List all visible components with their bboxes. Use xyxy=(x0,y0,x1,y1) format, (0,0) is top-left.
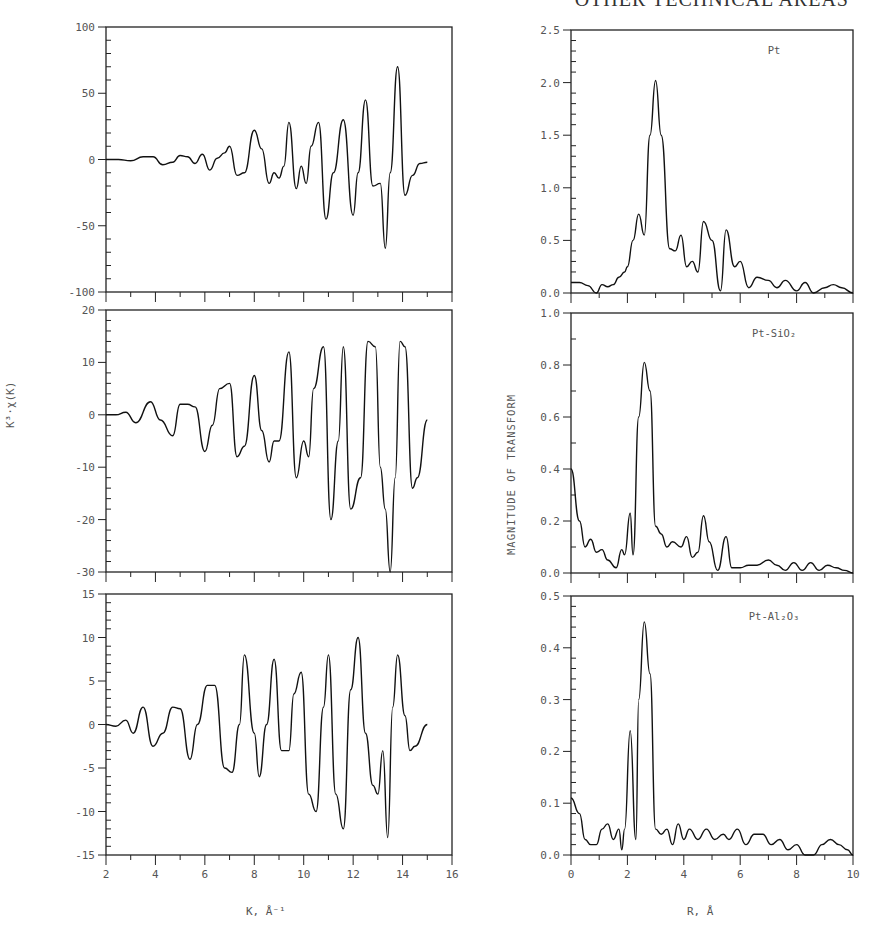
panel-title: Pt-SiO₂ xyxy=(752,327,796,339)
x-tick-label: 4 xyxy=(152,868,159,881)
y-tick-label: 1.5 xyxy=(540,129,560,142)
y-tick-label: 0.8 xyxy=(540,359,560,372)
y-tick-label: 15 xyxy=(82,588,95,601)
x-tick-label: 2 xyxy=(103,868,110,881)
x-tick-label: 14 xyxy=(396,868,410,881)
x-tick-label: 6 xyxy=(737,868,744,881)
y-tick-label: 0.0 xyxy=(540,849,560,862)
y-tick-label: 0.4 xyxy=(540,463,560,476)
left-x-axis-label: K, Å⁻¹ xyxy=(246,905,286,918)
x-tick-label: 8 xyxy=(251,868,258,881)
x-tick-label: 12 xyxy=(347,868,360,881)
y-tick-label: -10 xyxy=(75,806,95,819)
chart-chi-pt-al2o3: 151050-5-10-15246810121416 xyxy=(75,588,459,881)
plot-frame xyxy=(571,596,853,855)
y-tick-label: -50 xyxy=(75,220,95,233)
chart-ft-pt: 2.52.01.51.00.50.0Pt xyxy=(540,24,853,303)
y-tick-label: 0.0 xyxy=(540,567,560,580)
y-tick-label: 5 xyxy=(88,675,95,688)
y-tick-label: 0 xyxy=(88,154,95,167)
right-y-axis-label: MAGNITUDE OF TRANSFORM xyxy=(505,394,517,555)
y-tick-label: 0.5 xyxy=(540,234,560,247)
chart-chi-pt: 100500-50-100 xyxy=(69,21,453,302)
y-tick-label: 0.4 xyxy=(540,642,560,655)
y-tick-label: 1.0 xyxy=(540,307,560,320)
y-tick-label: 2.5 xyxy=(540,24,560,37)
y-tick-label: 0.1 xyxy=(540,797,560,810)
left-y-axis-label: K³·χ(K) xyxy=(4,382,17,428)
data-curve xyxy=(571,81,853,294)
y-tick-label: 2.0 xyxy=(540,77,560,90)
y-tick-label: -5 xyxy=(82,762,95,775)
y-tick-label: 0.3 xyxy=(540,694,560,707)
y-tick-label: 0 xyxy=(88,719,95,732)
y-tick-label: 20 xyxy=(82,304,95,317)
y-tick-label: 10 xyxy=(82,356,95,369)
chart-ft-pt-al2o3: 0.50.40.30.20.10.00246810Pt-Al₂O₃ xyxy=(540,590,860,881)
chart-chi-pt-sio2: 20100-10-20-30 xyxy=(75,304,452,582)
data-curve xyxy=(571,622,853,855)
plot-frame xyxy=(571,313,853,573)
chart-ft-pt-sio2: 1.00.80.60.40.20.0Pt-SiO₂ xyxy=(540,307,853,583)
plot-frame xyxy=(571,30,853,293)
y-tick-label: -10 xyxy=(75,461,95,474)
plot-frame xyxy=(106,27,452,292)
y-tick-label: -20 xyxy=(75,514,95,527)
x-tick-label: 10 xyxy=(846,868,859,881)
y-tick-label: -100 xyxy=(69,286,96,299)
x-tick-label: 6 xyxy=(202,868,209,881)
y-tick-label: 10 xyxy=(82,632,95,645)
panel-title: Pt-Al₂O₃ xyxy=(749,610,800,622)
x-tick-label: 0 xyxy=(568,868,575,881)
right-x-axis-label: R, Å xyxy=(687,905,714,918)
y-tick-label: 1.0 xyxy=(540,182,560,195)
data-curve xyxy=(106,341,427,572)
data-curve xyxy=(106,638,427,838)
y-tick-label: 50 xyxy=(82,87,95,100)
y-tick-label: -15 xyxy=(75,849,95,862)
y-tick-label: 0.2 xyxy=(540,515,560,528)
y-tick-label: 0.5 xyxy=(540,590,560,603)
x-tick-label: 8 xyxy=(793,868,800,881)
data-curve xyxy=(571,362,853,573)
y-tick-label: 100 xyxy=(75,21,95,34)
y-tick-label: -30 xyxy=(75,566,95,579)
y-tick-label: 0 xyxy=(88,409,95,422)
data-curve xyxy=(106,67,427,249)
figure: 100500-50-10020100-10-20-30151050-5-10-1… xyxy=(0,0,877,942)
y-tick-label: 0.6 xyxy=(540,411,560,424)
x-tick-label: 10 xyxy=(297,868,310,881)
x-tick-label: 4 xyxy=(680,868,687,881)
y-tick-label: 0.0 xyxy=(540,287,560,300)
panel-title: Pt xyxy=(768,44,781,56)
x-tick-label: 16 xyxy=(445,868,458,881)
y-tick-label: 0.2 xyxy=(540,745,560,758)
x-tick-label: 2 xyxy=(624,868,631,881)
